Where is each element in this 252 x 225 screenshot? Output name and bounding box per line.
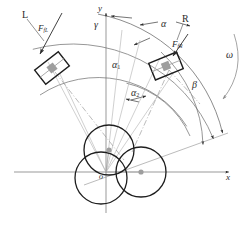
omega-arc [223, 34, 238, 99]
alpha-arrow-left [140, 22, 158, 25]
force-left-subscript: fL [44, 27, 49, 33]
label-right-wheel: R [182, 14, 189, 24]
center-dot-upper-left [106, 147, 111, 152]
radial-to-left-wheel [48, 62, 106, 172]
label-alpha: α [161, 19, 166, 29]
label-x-axis: x [226, 173, 230, 182]
label-omega: ω [226, 50, 233, 60]
leader-R [177, 24, 183, 40]
label-alpha1: α1 [112, 60, 120, 71]
center-dot-right [138, 169, 143, 174]
label-gamma: γ [94, 20, 98, 30]
circle-center-dots [106, 147, 143, 174]
label-beta: β [192, 80, 197, 90]
leader-group [27, 19, 183, 41]
arc-outer [98, 14, 223, 133]
arc-second [33, 44, 214, 139]
label-y-axis: y [98, 4, 102, 13]
force-right-subscript: fR [178, 43, 183, 49]
label-alpha2: α2 [131, 88, 139, 99]
label-force-left: FfL [38, 24, 48, 34]
wheel-left [35, 52, 70, 85]
circle-group [75, 125, 166, 204]
dashdot-left [55, 72, 124, 160]
angle-marker-group [111, 16, 190, 102]
label-left-wheel: L [22, 10, 28, 20]
wheel-right [149, 52, 184, 80]
radial-lines [48, 30, 228, 185]
radial-tilted-axis [84, 133, 228, 185]
label-force-right: FfR [172, 40, 182, 50]
alpha2-subscript: 2 [136, 91, 139, 98]
omega-group [223, 34, 238, 99]
dashdot-right [132, 70, 169, 152]
alpha1-subscript: 1 [117, 63, 120, 70]
radial-to-left-wheel-b [60, 74, 106, 172]
diagram-canvas: L R FfL FfR γ α α1 α2 β ω y x o [0, 0, 252, 225]
alpha1-arrow [134, 38, 150, 45]
label-origin: o [99, 173, 103, 181]
